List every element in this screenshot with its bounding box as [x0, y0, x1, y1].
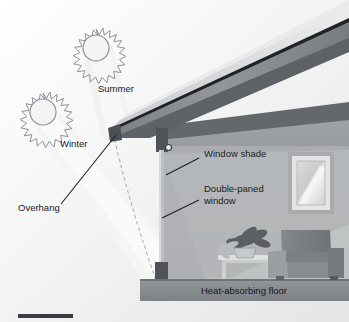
window-shade-roller-icon: [166, 145, 172, 151]
armchair-arm-right: [328, 248, 344, 278]
post-shaft-highlight: [159, 150, 161, 264]
armchair-arm-left: [268, 250, 288, 278]
winter-sun-disc: [30, 99, 56, 125]
floor-slab-top-edge: [140, 279, 349, 281]
scale-bar: [18, 314, 73, 318]
armchair-foot-left: [276, 276, 284, 280]
label-double-paned-window-line2: window: [203, 195, 236, 206]
passive-solar-diagram: Summer Winter Overhang Window shade Doub…: [0, 0, 349, 322]
plant-pot: [234, 248, 256, 258]
armchair-cushion: [286, 252, 328, 262]
label-heat-absorbing-floor: Heat-absorbing floor: [201, 285, 287, 296]
side-table-apron: [222, 260, 270, 263]
label-summer: Summer: [98, 83, 134, 94]
summer-sun-disc: [83, 35, 109, 61]
armchair-foot-right: [330, 276, 338, 280]
label-window-shade: Window shade: [204, 148, 266, 159]
label-overhang: Overhang: [18, 202, 60, 213]
label-winter: Winter: [60, 138, 87, 149]
label-double-paned-window-line1: Double-paned: [204, 183, 264, 194]
